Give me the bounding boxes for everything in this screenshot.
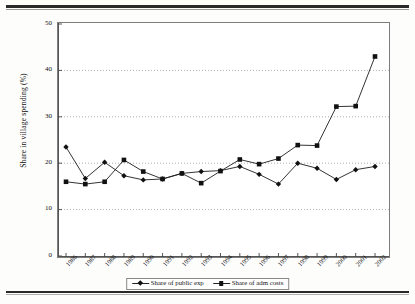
square-marker-icon (353, 104, 358, 109)
series-line-2 (66, 56, 375, 184)
square-marker-icon (218, 169, 223, 174)
square-marker-icon (83, 182, 88, 187)
y-tick-label: 0 (32, 252, 52, 259)
y-tick-label: 20 (32, 159, 52, 166)
diamond-marker-icon (132, 280, 149, 287)
square-marker-icon (295, 143, 300, 148)
square-marker-icon (276, 156, 281, 161)
legend-item-adm-costs: Share of adm costs (213, 280, 284, 287)
square-marker-icon (141, 169, 146, 174)
diamond-marker-icon (63, 144, 68, 149)
legend-item-public-exp: Share of public exp (132, 280, 204, 287)
series-line-1 (66, 147, 375, 184)
page-rule-top-thin (6, 9, 409, 10)
square-marker-icon (180, 171, 185, 176)
chart-figure: Share in village spending (%) 0102030405… (0, 12, 415, 288)
page-rule-top (6, 5, 409, 8)
square-marker-icon (199, 181, 204, 186)
plot-area (57, 22, 390, 258)
y-tick-label: 10 (32, 205, 52, 212)
diamond-marker-icon (314, 166, 319, 171)
diamond-marker-icon (237, 164, 242, 169)
square-marker-icon (315, 143, 320, 148)
figure-page: Share in village spending (%) 0102030405… (0, 0, 415, 304)
square-marker-icon (122, 158, 127, 163)
page-rule-bottom-thin (6, 294, 409, 295)
diamond-marker-icon (353, 167, 358, 172)
diamond-marker-icon (372, 164, 377, 169)
diamond-marker-icon (256, 172, 261, 177)
legend-label-public-exp: Share of public exp (151, 280, 204, 287)
page-rule-bottom (6, 291, 409, 293)
square-marker-icon (213, 280, 230, 287)
chart-legend: Share of public exp Share of adm costs (126, 278, 290, 290)
diamond-marker-icon (121, 173, 126, 178)
y-tick-label: 30 (32, 113, 52, 120)
square-marker-icon (257, 162, 262, 167)
diamond-marker-icon (334, 177, 339, 182)
chart-canvas (58, 23, 389, 257)
square-marker-icon (238, 157, 243, 162)
square-marker-icon (373, 54, 378, 59)
square-marker-icon (64, 179, 69, 184)
y-tick-label: 50 (32, 20, 52, 27)
square-marker-icon (160, 177, 165, 182)
diamond-marker-icon (141, 177, 146, 182)
legend-label-adm-costs: Share of adm costs (232, 280, 284, 287)
y-tick-label: 40 (32, 66, 52, 73)
square-marker-icon (334, 104, 339, 109)
square-marker-icon (102, 179, 107, 184)
diamond-marker-icon (198, 169, 203, 174)
